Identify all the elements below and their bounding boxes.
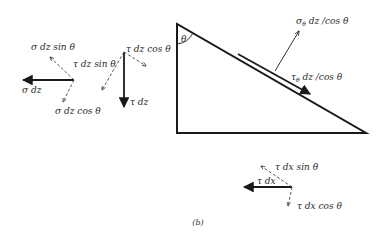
tau-dz-vector-group: τ dz τ dz sin θ τ dz cos θ	[73, 44, 171, 107]
sigma-dz-cos-label: σ dz cos θ	[55, 106, 101, 116]
tau-dz-sin-label: τ dz sin θ	[73, 59, 116, 69]
tau-dx-vector-group: τ dx τ dx sin θ τ dx cos θ	[244, 162, 342, 211]
normal-force-vector: σθ dz /cos θ	[275, 16, 349, 71]
sigma-dz-vector-group: σ dz σ dz sin θ σ dz cos θ	[22, 42, 101, 116]
tau-dx-label: τ dx	[257, 176, 276, 186]
tau-dz-cos-arrow	[124, 52, 146, 66]
tau-dx-sin-label: τ dx sin θ	[275, 162, 319, 172]
sigma-dz-cos-arrow	[63, 80, 74, 102]
tau-dx-cos-label: τ dx cos θ	[297, 201, 342, 211]
shear-force-label: τθ dz /cos θ	[291, 72, 343, 83]
normal-force-arrow	[275, 31, 299, 71]
figure-caption: (b)	[192, 218, 203, 227]
tau-dz-cos-label: τ dz cos θ	[126, 44, 171, 54]
tau-dz-sin-arrow	[102, 52, 124, 90]
tau-dx-cos-arrow	[288, 187, 292, 206]
angle-theta-label: θ	[181, 34, 187, 44]
shear-force-vector: τθ dz /cos θ	[238, 54, 343, 94]
sigma-dz-label: σ dz	[22, 85, 42, 95]
normal-force-label: σθ dz /cos θ	[296, 16, 349, 27]
sigma-dz-sin-arrow	[50, 57, 74, 80]
tau-dz-label: τ dz	[130, 97, 149, 107]
free-body-diagram: θ σθ dz /cos θ τθ dz /cos θ σ dz σ dz si…	[0, 0, 389, 240]
sigma-dz-sin-label: σ dz sin θ	[31, 42, 76, 52]
